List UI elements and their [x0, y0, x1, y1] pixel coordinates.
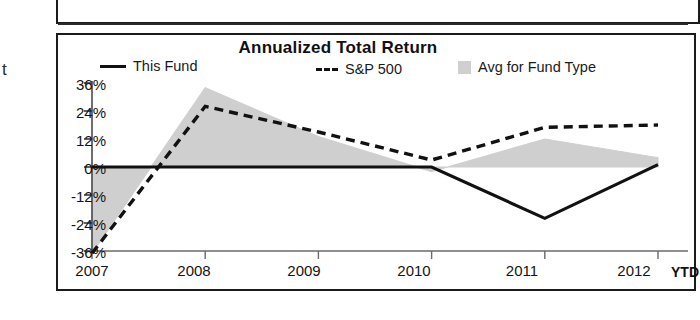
xtick-label-2009: 2009	[269, 262, 339, 279]
clipped-upper-panel	[56, 0, 700, 24]
xtick-label-2010: 2010	[379, 262, 449, 279]
annualized-total-return-chart: Annualized Total Return This Fund S&P 50…	[56, 33, 696, 291]
ytick-label-12: 12%	[52, 132, 106, 149]
xtick-label-2011: 2011	[487, 262, 557, 279]
ytick-label-neg36: -36%	[52, 244, 106, 261]
ytick-label-0: 0%	[52, 160, 106, 177]
ytd-annotation-label: YTD	[671, 264, 699, 280]
xtick-label-2007: 2007	[57, 262, 127, 279]
ytick-label-36: 36%	[52, 76, 106, 93]
xtick-label-2008: 2008	[159, 262, 229, 279]
plot-area	[58, 35, 698, 293]
clipped-left-text: t	[2, 60, 7, 80]
panel-divider-rule	[58, 23, 688, 25]
ytick-label-24: 24%	[52, 104, 106, 121]
xtick-label-2012: 2012	[599, 262, 669, 279]
ytick-label-neg24: -24%	[52, 216, 106, 233]
ytick-label-neg12: -12%	[52, 188, 106, 205]
plot-svg	[58, 35, 698, 293]
